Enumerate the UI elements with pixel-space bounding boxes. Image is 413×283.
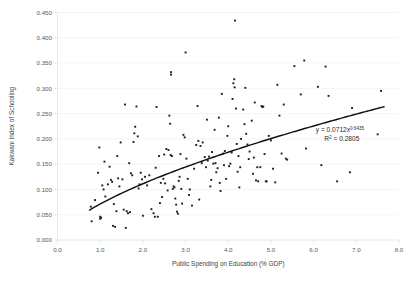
data-point bbox=[198, 199, 200, 201]
data-point bbox=[223, 164, 225, 166]
data-point bbox=[154, 216, 156, 218]
data-point bbox=[214, 129, 216, 131]
data-point bbox=[253, 157, 255, 159]
data-point bbox=[252, 173, 254, 175]
data-point bbox=[225, 178, 227, 180]
data-point bbox=[185, 51, 187, 53]
data-point bbox=[168, 149, 170, 151]
data-point bbox=[197, 105, 199, 107]
data-point bbox=[293, 65, 295, 67]
data-point bbox=[234, 20, 236, 22]
data-point bbox=[138, 187, 140, 189]
data-point bbox=[178, 180, 180, 182]
data-point bbox=[255, 179, 257, 181]
data-point bbox=[131, 174, 133, 176]
data-point bbox=[116, 155, 118, 157]
data-point bbox=[165, 148, 167, 150]
data-point bbox=[187, 178, 189, 180]
data-point bbox=[276, 84, 278, 86]
data-point bbox=[164, 182, 166, 184]
data-point bbox=[259, 166, 261, 168]
x-tick-label-4: 4.0 bbox=[224, 246, 233, 253]
data-point bbox=[162, 178, 164, 180]
data-point bbox=[103, 188, 105, 190]
data-point bbox=[140, 172, 142, 174]
data-point bbox=[120, 141, 122, 143]
data-point bbox=[159, 202, 161, 204]
data-point bbox=[133, 141, 135, 143]
y-tick-label-4: 0.200 bbox=[37, 135, 53, 142]
data-point bbox=[180, 188, 182, 190]
x-tick-label-2: 2.0 bbox=[139, 246, 148, 253]
data-point bbox=[237, 171, 239, 173]
data-point bbox=[279, 115, 281, 117]
data-point bbox=[215, 171, 217, 173]
data-point bbox=[336, 180, 338, 182]
data-point bbox=[238, 155, 240, 157]
data-point bbox=[167, 190, 169, 192]
data-point bbox=[175, 204, 177, 206]
chart-canvas: 0.0000.0500.1000.1500.2000.2500.3000.350… bbox=[0, 0, 413, 283]
data-point bbox=[169, 123, 171, 125]
data-point bbox=[168, 115, 170, 117]
data-point bbox=[133, 132, 135, 134]
data-point bbox=[200, 145, 202, 147]
data-point bbox=[177, 213, 179, 215]
data-point bbox=[142, 215, 144, 217]
data-point bbox=[239, 166, 241, 168]
data-point bbox=[127, 212, 129, 214]
data-point bbox=[176, 211, 178, 213]
data-point bbox=[257, 180, 259, 182]
data-point bbox=[219, 182, 221, 184]
data-point bbox=[320, 164, 322, 166]
data-point bbox=[232, 98, 234, 100]
data-point bbox=[218, 117, 220, 119]
data-point bbox=[268, 135, 270, 137]
data-point bbox=[141, 178, 143, 180]
data-point bbox=[158, 155, 160, 157]
data-point bbox=[270, 139, 272, 141]
data-point bbox=[204, 156, 206, 158]
data-point bbox=[157, 216, 159, 218]
data-point bbox=[137, 135, 139, 137]
data-point bbox=[113, 203, 115, 205]
data-point bbox=[300, 93, 302, 95]
data-point bbox=[184, 136, 186, 138]
data-point bbox=[144, 176, 146, 178]
data-point bbox=[174, 186, 176, 188]
x-tick-label-6: 6.0 bbox=[309, 246, 318, 253]
data-point bbox=[377, 133, 379, 135]
x-tick-label-3: 3.0 bbox=[181, 246, 190, 253]
data-point bbox=[197, 140, 199, 142]
data-point bbox=[171, 155, 173, 157]
data-point bbox=[161, 196, 163, 198]
y-tick-label-5: 0.250 bbox=[37, 110, 53, 117]
data-point bbox=[210, 179, 212, 181]
data-point bbox=[286, 159, 288, 161]
data-point bbox=[160, 182, 162, 184]
data-point bbox=[90, 206, 92, 208]
data-point bbox=[303, 60, 305, 62]
data-point bbox=[101, 184, 103, 186]
data-point bbox=[118, 185, 120, 187]
data-point bbox=[189, 188, 191, 190]
data-point bbox=[266, 180, 268, 182]
data-point bbox=[91, 220, 93, 222]
data-point bbox=[146, 184, 148, 186]
data-point bbox=[134, 126, 136, 128]
y-tick-label-6: 0.300 bbox=[37, 85, 53, 92]
data-point bbox=[281, 153, 283, 155]
y-tick-label-3: 0.150 bbox=[37, 160, 53, 167]
data-point bbox=[112, 225, 114, 227]
x-tick-label-8: 8.0 bbox=[395, 246, 404, 253]
data-point bbox=[209, 185, 211, 187]
data-point bbox=[249, 151, 251, 153]
data-point bbox=[182, 134, 184, 136]
data-point bbox=[193, 168, 195, 170]
data-point bbox=[98, 147, 100, 149]
data-point bbox=[117, 177, 119, 179]
data-point bbox=[380, 90, 382, 92]
data-point bbox=[172, 188, 174, 190]
data-point bbox=[229, 163, 231, 165]
data-point bbox=[349, 171, 351, 173]
